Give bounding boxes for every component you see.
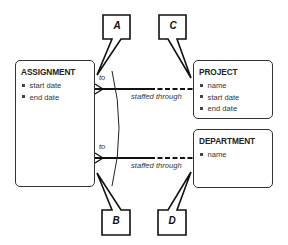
attribute-item: end date bbox=[199, 103, 272, 115]
entity-department: DEPARTMENT name bbox=[193, 129, 273, 188]
attribute-item: name bbox=[199, 80, 272, 92]
entity-title: PROJECT bbox=[199, 67, 272, 77]
relationship-near-label: to bbox=[99, 142, 105, 151]
bullet-icon bbox=[200, 95, 203, 98]
bullet-icon bbox=[22, 95, 25, 98]
attribute-item: name bbox=[199, 149, 272, 161]
entity-assignment: ASSIGNMENT start date end date bbox=[15, 60, 95, 187]
relationship-far-label: staffed through bbox=[131, 161, 182, 170]
bullet-icon bbox=[200, 107, 203, 110]
relationship-far-label: staffed through bbox=[131, 92, 182, 101]
callout-a-label: A bbox=[103, 20, 131, 31]
relationship-near-label: to bbox=[99, 73, 105, 82]
attribute-item: start date bbox=[199, 92, 272, 104]
bullet-icon bbox=[200, 153, 203, 156]
entity-title: DEPARTMENT bbox=[199, 136, 272, 146]
bullet-icon bbox=[22, 84, 25, 87]
callout-d-label: D bbox=[158, 215, 186, 226]
entity-title: ASSIGNMENT bbox=[21, 67, 94, 77]
entity-project: PROJECT name start date end date bbox=[193, 60, 273, 119]
bullet-icon bbox=[200, 84, 203, 87]
callout-b-label: B bbox=[102, 215, 130, 226]
callout-c-label: C bbox=[159, 20, 187, 31]
attribute-item: start date bbox=[21, 80, 94, 92]
attribute-item: end date bbox=[21, 92, 94, 104]
